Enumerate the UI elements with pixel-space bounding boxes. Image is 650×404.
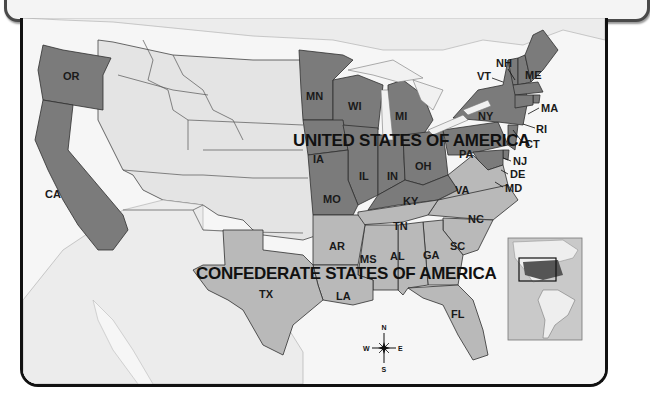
label-NC: NC <box>468 213 484 225</box>
label-MI: MI <box>395 110 407 122</box>
civil-war-map: OR CA MN WI MI IA IL IN OH MO KY PA NY V… <box>23 18 605 384</box>
label-FL: FL <box>451 308 465 320</box>
region-label-confederacy: CONFEDERATE STATES OF AMERICA <box>196 264 496 283</box>
inset-locator-map <box>508 238 582 340</box>
label-MD: MD <box>505 182 522 194</box>
label-SC: SC <box>450 240 465 252</box>
label-RI: RI <box>536 123 547 135</box>
label-VT: VT <box>477 70 491 82</box>
label-AR: AR <box>329 240 345 252</box>
label-MN: MN <box>306 90 323 102</box>
label-IL: IL <box>359 170 369 182</box>
label-MO: MO <box>323 193 341 205</box>
label-WI: WI <box>348 100 361 112</box>
label-GA: GA <box>423 249 440 261</box>
label-OH: OH <box>415 160 432 172</box>
compass-s: S <box>382 366 387 373</box>
state-RI <box>533 95 540 103</box>
label-DE: DE <box>510 168 525 180</box>
label-IN: IN <box>387 170 398 182</box>
label-TN: TN <box>393 220 408 232</box>
label-AL: AL <box>390 250 405 262</box>
compass-w: W <box>363 345 370 352</box>
label-LA: LA <box>336 290 351 302</box>
compass-n: N <box>382 324 387 331</box>
label-IA: IA <box>313 153 324 165</box>
label-KY: KY <box>403 195 419 207</box>
region-label-union: UNITED STATES OF AMERICA <box>293 131 530 150</box>
label-NY: NY <box>478 110 494 122</box>
map-frame: OR CA MN WI MI IA IL IN OH MO KY PA NY V… <box>20 18 608 387</box>
label-OR: OR <box>63 70 80 82</box>
label-TX: TX <box>259 288 274 300</box>
label-CA: CA <box>45 188 61 200</box>
label-MA: MA <box>541 102 558 114</box>
label-NH: NH <box>496 57 512 69</box>
label-ME: ME <box>525 69 542 81</box>
compass-e: E <box>398 345 403 352</box>
label-VA: VA <box>455 184 470 196</box>
label-NJ: NJ <box>513 155 527 167</box>
